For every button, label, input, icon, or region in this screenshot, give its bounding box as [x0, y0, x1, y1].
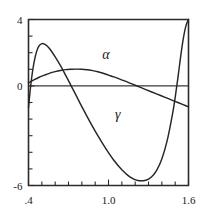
annotation-gamma: γ: [115, 107, 121, 122]
curve-alpha: [29, 69, 189, 107]
y-tick-label: 4: [17, 14, 23, 26]
y-tick-label: -6: [13, 180, 23, 192]
axes-group: [29, 20, 189, 186]
x-tick-label: 1.6: [182, 194, 196, 206]
x-axis-ticks: [29, 180, 189, 186]
plot-canvas: .41.01.640-6 αγ: [0, 0, 207, 212]
x-tick-label: 1.0: [102, 194, 116, 206]
curve-gamma: [29, 20, 189, 181]
annotation-alpha: α: [102, 47, 110, 62]
tick-labels: .41.01.640-6: [13, 14, 196, 206]
x-tick-label: .4: [24, 194, 33, 206]
y-tick-label: 0: [17, 80, 23, 92]
curve-annotations: αγ: [102, 47, 121, 122]
axis-frame: [29, 20, 189, 186]
data-curves: [29, 20, 189, 181]
chart-figure: .41.01.640-6 αγ: [0, 0, 207, 212]
